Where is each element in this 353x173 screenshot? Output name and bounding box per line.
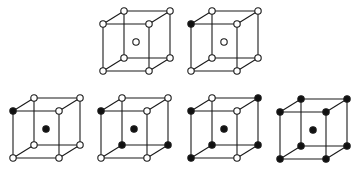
corner-atom-bbl-filled bbox=[119, 142, 125, 148]
corner-atom-btr-open bbox=[165, 95, 171, 101]
corner-atom-btr-open bbox=[167, 8, 173, 14]
corner-atom-fbl-open bbox=[98, 155, 104, 161]
corner-atom-btl-open bbox=[209, 8, 215, 14]
corner-atom-ftr-open bbox=[234, 108, 240, 114]
corner-atom-fbl-open bbox=[10, 155, 16, 161]
corner-atom-btr-filled bbox=[344, 96, 350, 102]
cube-d bbox=[95, 92, 174, 164]
corner-atom-btr-filled bbox=[255, 95, 261, 101]
corner-atom-ftr-open bbox=[146, 21, 152, 27]
cube-a bbox=[97, 5, 176, 77]
cube-b bbox=[185, 5, 264, 77]
corner-atom-btl-open bbox=[31, 95, 37, 101]
corner-atom-btl-open bbox=[209, 95, 215, 101]
corner-atom-bbr-open bbox=[255, 55, 261, 61]
corner-atom-bbl-open bbox=[121, 55, 127, 61]
corner-atom-btr-open bbox=[77, 95, 83, 101]
corner-atom-bbl-open bbox=[31, 142, 37, 148]
corner-atom-btr-open bbox=[255, 8, 261, 14]
corner-atom-fbr-open bbox=[56, 155, 62, 161]
corner-atom-fbr-open bbox=[146, 68, 152, 74]
diagram-canvas bbox=[0, 0, 353, 173]
center-atom-open bbox=[221, 39, 227, 45]
corner-atom-fbl-open bbox=[188, 68, 194, 74]
corner-atom-bbr-filled bbox=[255, 142, 261, 148]
corner-atom-ftr-open bbox=[144, 108, 150, 114]
corner-atom-btl-open bbox=[119, 95, 125, 101]
corner-atom-bbr-open bbox=[77, 142, 83, 148]
center-atom-filled bbox=[131, 126, 137, 132]
corner-atom-ftl-filled bbox=[98, 108, 104, 114]
center-atom-filled bbox=[43, 126, 49, 132]
cube-c bbox=[7, 92, 86, 164]
corner-atom-fbl-open bbox=[100, 68, 106, 74]
corner-atom-bbl-filled bbox=[209, 142, 215, 148]
corner-atom-ftl-filled bbox=[10, 108, 16, 114]
corner-atom-btl-filled bbox=[298, 96, 304, 102]
corner-atom-fbr-open bbox=[234, 155, 240, 161]
corner-atom-btl-open bbox=[121, 8, 127, 14]
corner-atom-bbr-open bbox=[167, 55, 173, 61]
corner-atom-fbl-filled bbox=[188, 155, 194, 161]
corner-atom-bbr-filled bbox=[165, 142, 171, 148]
corner-atom-ftl-open bbox=[100, 21, 106, 27]
cube-e bbox=[185, 92, 264, 164]
corner-atom-bbr-filled bbox=[344, 143, 350, 149]
corner-atom-fbl-filled bbox=[277, 156, 283, 162]
cube-f bbox=[274, 93, 353, 165]
corner-atom-ftr-open bbox=[234, 21, 240, 27]
corner-atom-ftl-filled bbox=[277, 109, 283, 115]
corner-atom-ftr-filled bbox=[323, 109, 329, 115]
corner-atom-bbl-filled bbox=[298, 143, 304, 149]
center-atom-filled bbox=[310, 127, 316, 133]
corner-atom-fbr-filled bbox=[323, 156, 329, 162]
center-atom-open bbox=[133, 39, 139, 45]
corner-atom-ftl-filled bbox=[188, 21, 194, 27]
corner-atom-fbr-open bbox=[144, 155, 150, 161]
corner-atom-ftl-filled bbox=[188, 108, 194, 114]
corner-atom-bbl-open bbox=[209, 55, 215, 61]
corner-atom-ftr-open bbox=[56, 108, 62, 114]
corner-atom-fbr-open bbox=[234, 68, 240, 74]
center-atom-filled bbox=[221, 126, 227, 132]
